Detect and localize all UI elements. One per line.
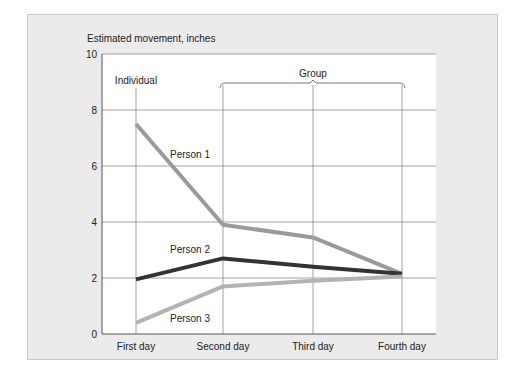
y-tick-10: 10 bbox=[86, 49, 98, 60]
x-tick-second-day: Second day bbox=[197, 341, 250, 352]
line-chart: Estimated movement, inches 10 8 6 4 2 0 … bbox=[0, 0, 516, 389]
y-tick-2: 2 bbox=[91, 273, 97, 284]
person-3-label: Person 3 bbox=[170, 313, 210, 324]
x-tick-fourth-day: Fourth day bbox=[378, 341, 426, 352]
y-tick-6: 6 bbox=[91, 161, 97, 172]
x-tick-first-day: First day bbox=[117, 341, 155, 352]
plot-area bbox=[102, 54, 436, 334]
x-tick-labels: First day Second day Third day Fourth da… bbox=[117, 341, 426, 352]
y-axis-label: Estimated movement, inches bbox=[87, 33, 215, 44]
y-tick-0: 0 bbox=[91, 329, 97, 340]
y-tick-8: 8 bbox=[91, 105, 97, 116]
x-tick-third-day: Third day bbox=[292, 341, 334, 352]
individual-label: Individual bbox=[115, 75, 157, 86]
person-1-label: Person 1 bbox=[170, 149, 210, 160]
group-label: Group bbox=[299, 68, 327, 79]
y-tick-4: 4 bbox=[91, 217, 97, 228]
y-tick-labels: 10 8 6 4 2 0 bbox=[86, 49, 98, 340]
person-2-label: Person 2 bbox=[170, 244, 210, 255]
